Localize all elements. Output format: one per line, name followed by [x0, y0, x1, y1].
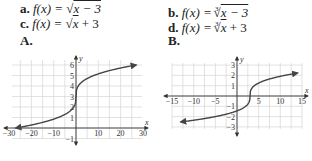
graph-a: xy−30−20−10102030−1123456	[3, 54, 149, 145]
x-axis-label: x	[144, 118, 149, 127]
graph-b: xy−15−10−551015−3−2−1123	[164, 55, 309, 136]
x-tick-label: −10	[47, 129, 60, 138]
x-tick-label: −15	[166, 97, 179, 106]
y-tick-label: 1	[70, 114, 74, 123]
x-tick-label: 20	[117, 129, 125, 138]
y-axis-label: y	[78, 54, 83, 63]
x-tick-label: −10	[187, 97, 200, 106]
x-axis-label: x	[304, 86, 309, 95]
y-tick-label: 5	[70, 72, 74, 81]
x-tick-label: 15	[298, 97, 306, 106]
y-tick-label: 6	[70, 61, 74, 70]
x-tick-label: 10	[94, 129, 102, 138]
x-tick-label: 30	[139, 129, 147, 138]
y-tick-label: 3	[231, 61, 235, 70]
y-tick-label: 1	[231, 82, 235, 91]
x-tick-label: −30	[3, 129, 16, 138]
x-tick-label: −5	[211, 97, 220, 106]
graphs-canvas: xy−30−20−10102030−1123456 xy−15−10−55101…	[0, 0, 312, 161]
y-tick-label: 4	[70, 82, 74, 91]
y-tick-label: 3	[70, 93, 74, 102]
y-tick-label: 2	[231, 71, 235, 80]
x-tick-label: 5	[257, 97, 261, 106]
y-tick-label: −1	[226, 102, 235, 111]
x-tick-label: −20	[25, 129, 38, 138]
y-axis-label: y	[239, 55, 244, 64]
y-tick-label: −1	[65, 135, 74, 144]
x-tick-label: 10	[276, 97, 284, 106]
y-tick-label: −3	[226, 123, 235, 132]
